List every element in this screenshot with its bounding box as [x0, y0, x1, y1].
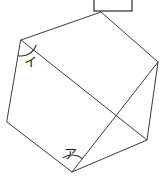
diagonal-topleft-bottomright — [21, 40, 147, 140]
diagonal-right-bottom — [72, 62, 158, 172]
geometry-figure-container: ア イ — [0, 0, 167, 178]
geometry-figure-svg: ア イ — [0, 0, 167, 178]
hexagon-outline — [7, 12, 158, 172]
angle-label-i: イ — [24, 54, 37, 69]
angle-label-a: ア — [64, 146, 77, 161]
answer-input-box[interactable] — [94, 0, 132, 11]
